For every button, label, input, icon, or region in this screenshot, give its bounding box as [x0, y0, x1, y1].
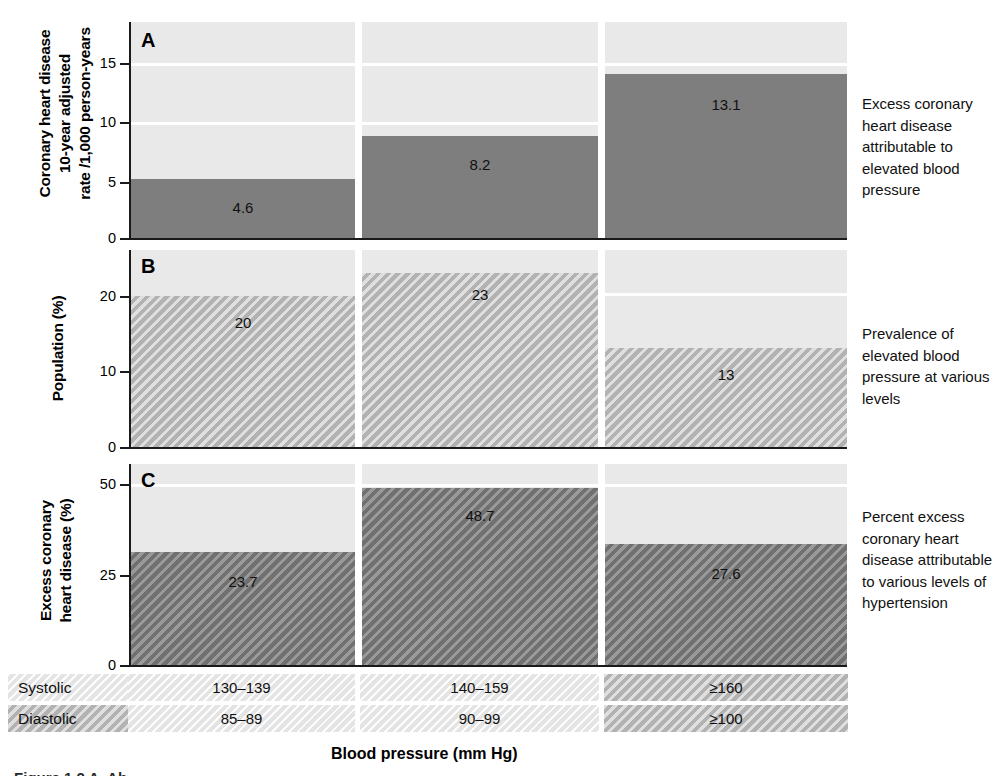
panel-c-column-2[interactable]: 48.7 [362, 464, 598, 665]
panel-a-ytick-15: 15 [84, 55, 116, 71]
panel-c-bar-3[interactable]: 27.6 [605, 544, 847, 665]
panel-b-column-3[interactable]: 13 [605, 250, 847, 447]
panel-c-bar-1-value: 23.7 [131, 573, 355, 590]
panel-b-ylabel-line1: Population (%) [49, 296, 66, 402]
panel-b-ytick-20: 20 [84, 288, 116, 304]
panel-b-bar-3[interactable]: 13 [605, 348, 847, 447]
x-axis-title: Blood pressure (mm Hg) [331, 745, 518, 763]
panel-b-gridline-20-c3 [605, 293, 847, 296]
panel-c-gridline-50-c2 [362, 484, 598, 487]
systolic-cell-1: 130–139 [128, 674, 355, 701]
panel-a-ytick-5: 5 [84, 174, 116, 190]
panel-b-column-1[interactable]: 20 [131, 250, 355, 447]
panel-a-ylabel-2: 10-year adjusted [55, 8, 74, 220]
panel-b-note: Prevalence of elevated blood pressure at… [862, 323, 1004, 409]
panel-b-bar-2[interactable]: 23 [362, 273, 598, 447]
panel-c-ylabel: Excess coronary [36, 461, 55, 661]
panel-a-bar-1-value: 4.6 [131, 199, 355, 216]
panel-a-ylabel-line1: Coronary heart disease [36, 30, 53, 198]
systolic-row-label: Systolic [8, 674, 133, 701]
panel-a-ytick-10: 10 [84, 114, 116, 130]
systolic-cell-3: ≥160 [604, 674, 848, 701]
panel-c-letter: C [141, 469, 155, 492]
panel-c-bar-1[interactable]: 23.7 [131, 552, 355, 665]
panel-b-bar-2-value: 23 [362, 286, 598, 303]
panel-c-bar-3-value: 27.6 [605, 565, 847, 582]
panel-c-ytick-50: 50 [84, 476, 116, 492]
panel-c-column-1[interactable]: 23.7 [131, 464, 355, 665]
panel-b-ylabel: Population (%) [48, 259, 67, 439]
panel-a-letter: A [141, 29, 155, 52]
panel-c-plot-area: 23.7 48.7 27.6 C [131, 464, 847, 665]
panel-a-bar-3[interactable]: 13.1 [605, 74, 847, 238]
diastolic-cell-3: ≥100 [604, 705, 848, 732]
panel-c-ylabel-line2: heart disease (%) [57, 498, 74, 622]
panel-b-bar-1[interactable]: 20 [131, 296, 355, 447]
panel-a-ylabel-line2: 10-year adjusted [56, 54, 73, 173]
panel-c-x-axis [129, 665, 847, 667]
panel-c-column-3[interactable]: 27.6 [605, 464, 847, 665]
diastolic-cell-2: 90–99 [360, 705, 599, 732]
panel-c-ytick-0: 0 [84, 657, 116, 673]
panel-a-gridline-10 [131, 122, 355, 125]
panel-c-gridline-50-c3 [605, 484, 847, 487]
diastolic-row-label: Diastolic [8, 705, 133, 732]
panel-c-bar-2[interactable]: 48.7 [362, 488, 598, 665]
panel-a-column-2[interactable]: 8.2 [362, 22, 598, 238]
panel-c-note: Percent excess coronary heart disease at… [862, 506, 1004, 614]
systolic-cell-2: 140–159 [360, 674, 599, 701]
panel-c-ylabel-line1: Excess coronary [37, 500, 54, 621]
panel-a-column-1[interactable]: 4.6 [131, 22, 355, 238]
diastolic-cell-1: 85–89 [128, 705, 355, 732]
panel-b-ytick-0: 0 [84, 439, 116, 455]
panel-b-bar-3-value: 13 [605, 366, 847, 383]
panel-b-bar-1-value: 20 [131, 314, 355, 331]
panel-a-bar-3-value: 13.1 [605, 96, 847, 113]
panel-b-ytick-10: 10 [84, 363, 116, 379]
panel-a-bar-2[interactable]: 8.2 [362, 136, 598, 238]
panel-a-x-axis [129, 238, 847, 240]
panel-a-ytick-0: 0 [84, 230, 116, 246]
panel-c-ylabel-2: heart disease (%) [56, 461, 75, 661]
panel-b-column-2[interactable]: 23 [362, 250, 598, 447]
panel-a-gridline-10-c2 [362, 122, 598, 125]
panel-a-gridline-15-c3 [605, 63, 847, 66]
panel-a-gridline-15 [131, 63, 355, 66]
category-table: Systolic 130–139 140–159 ≥160 Diastolic … [8, 674, 848, 734]
panel-a-gridline-15-c2 [362, 63, 598, 66]
panel-a-ylabel: Coronary heart disease [35, 8, 54, 220]
panel-b-letter: B [141, 255, 155, 278]
panel-a-bar-2-value: 8.2 [362, 156, 598, 173]
panel-c-gridline-50 [131, 484, 355, 487]
panel-c-ytick-25: 25 [84, 567, 116, 583]
panel-a-bar-1[interactable]: 4.6 [131, 179, 355, 238]
figure-caption: Figure 1.2 A, Ab [14, 769, 314, 776]
panel-c-bar-2-value: 48.7 [362, 507, 598, 524]
panel-b-plot-area: 20 23 13 B [131, 250, 847, 447]
panel-a-column-3[interactable]: 13.1 [605, 22, 847, 238]
panel-a-plot-area: 4.6 8.2 13.1 A [131, 22, 847, 238]
diastolic-row: Diastolic 85–89 90–99 ≥100 [8, 705, 848, 732]
panel-b-x-axis [129, 447, 847, 449]
panel-a-note: Excess coronary heart disease attributab… [862, 93, 1004, 201]
systolic-row: Systolic 130–139 140–159 ≥160 [8, 674, 848, 701]
